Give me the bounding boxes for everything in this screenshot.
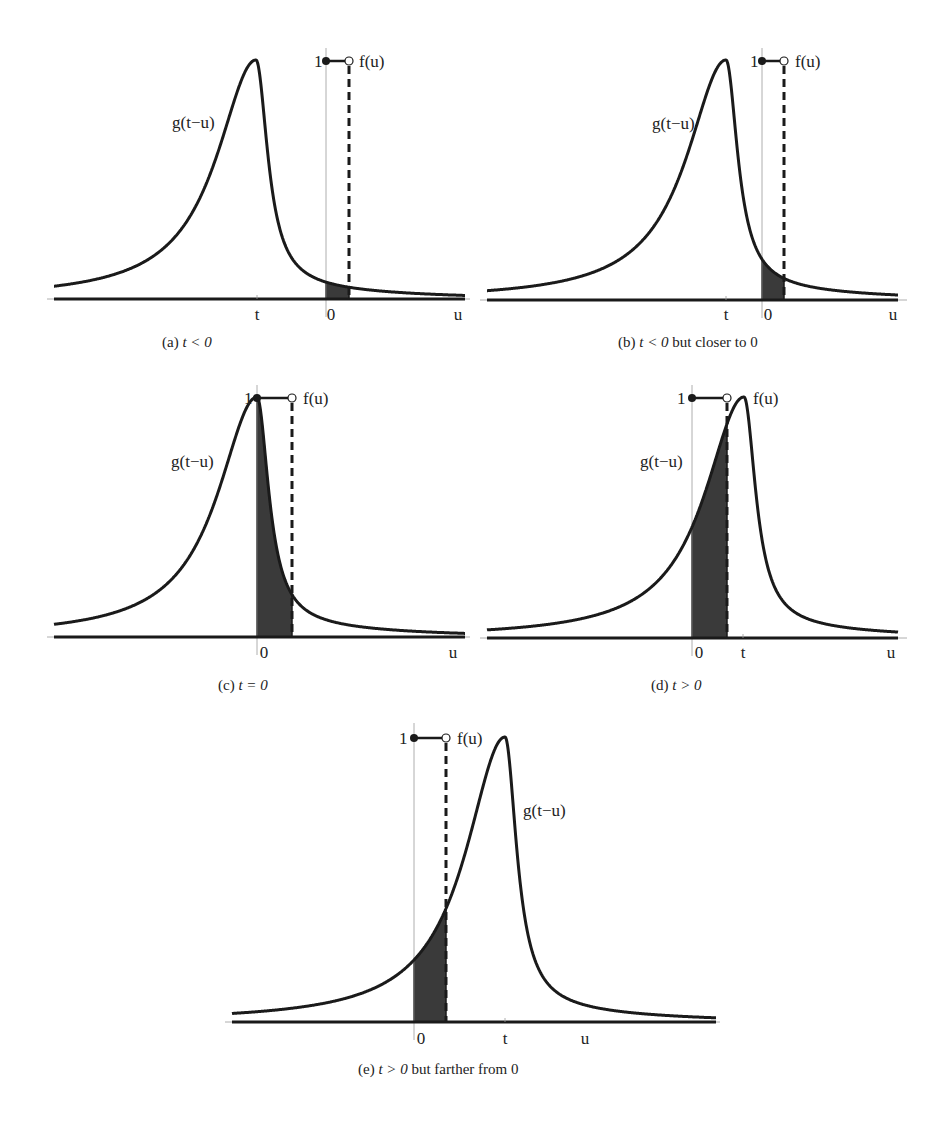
panel-caption: (a) t < 0: [162, 334, 212, 351]
one-label: 1: [314, 52, 323, 71]
g-label: g(t−u): [172, 113, 215, 132]
f-label: f(u): [753, 389, 778, 408]
kernel-curve: [232, 737, 716, 1018]
panel-d: 1f(u)g(t−u)t0u(d) t > 0: [480, 385, 907, 694]
panel-e: 1f(u)g(t−u)t0u(e) t > 0 but farther from…: [225, 723, 720, 1078]
panel-caption: (c) t = 0: [218, 677, 268, 694]
g-label: g(t−u): [640, 452, 683, 471]
open-endpoint-icon: [345, 57, 353, 65]
t-tick-label: t: [741, 643, 746, 662]
panel-caption: (e) t > 0 but farther from 0: [358, 1061, 519, 1078]
u-axis-label: u: [887, 643, 896, 662]
convolution-figure: 1f(u)g(t−u)t0u(a) t < 01f(u)g(t−u)t0u(b)…: [0, 0, 944, 1126]
zero-tick-label: 0: [327, 305, 336, 324]
kernel-curve: [487, 60, 898, 295]
u-axis-label: u: [581, 1029, 590, 1048]
open-endpoint-icon: [442, 734, 450, 742]
g-label: g(t−u): [652, 114, 695, 133]
u-axis-label: u: [889, 305, 898, 324]
panel-c: 1f(u)g(t−u)0u(c) t = 0: [47, 385, 470, 694]
f-label: f(u): [795, 52, 820, 71]
open-endpoint-icon: [723, 394, 731, 402]
u-axis-label: u: [449, 643, 458, 662]
one-label: 1: [244, 389, 253, 408]
closed-endpoint-icon: [322, 57, 330, 65]
f-label: f(u): [457, 729, 482, 748]
f-label: f(u): [359, 52, 384, 71]
closed-endpoint-icon: [688, 394, 696, 402]
u-axis-label: u: [454, 305, 463, 324]
zero-tick-label: 0: [417, 1029, 426, 1048]
one-label: 1: [399, 729, 408, 748]
panel-caption: (b) t < 0 but closer to 0: [618, 334, 758, 351]
zero-tick-label: 0: [695, 643, 704, 662]
one-label: 1: [750, 52, 759, 71]
overlap-area: [414, 909, 446, 1023]
panel-b: 1f(u)g(t−u)t0u(b) t < 0 but closer to 0: [480, 48, 907, 351]
closed-endpoint-icon: [758, 57, 766, 65]
f-label: f(u): [303, 389, 328, 408]
one-label: 1: [677, 389, 686, 408]
kernel-curve: [54, 60, 465, 295]
g-label: g(t−u): [523, 801, 566, 820]
zero-tick-label: 0: [260, 643, 269, 662]
closed-endpoint-icon: [410, 734, 418, 742]
open-endpoint-icon: [288, 394, 296, 402]
g-label: g(t−u): [171, 452, 214, 471]
open-endpoint-icon: [780, 57, 788, 65]
overlap-area: [692, 424, 727, 638]
panel-a: 1f(u)g(t−u)t0u(a) t < 0: [47, 48, 470, 351]
panel-caption: (d) t > 0: [651, 677, 702, 694]
t-tick-label: t: [724, 305, 729, 324]
t-tick-label: t: [255, 305, 260, 324]
closed-endpoint-icon: [253, 394, 261, 402]
zero-tick-label: 0: [764, 305, 773, 324]
t-tick-label: t: [503, 1029, 508, 1048]
